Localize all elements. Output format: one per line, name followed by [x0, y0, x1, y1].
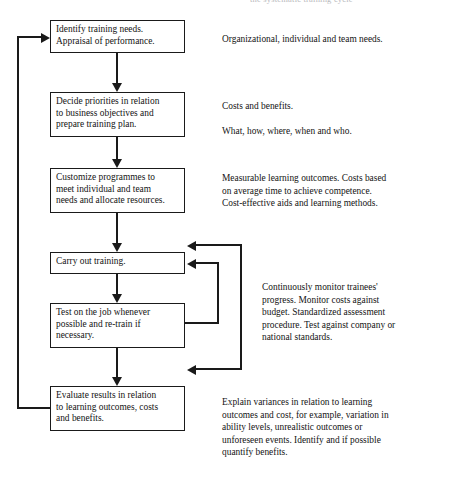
annotation-explain-line-5: quantify benefits. — [222, 446, 389, 459]
node-decide-line-3: prepare training plan. — [56, 119, 180, 131]
annotation-explain-variances: Explain variances in relation to learnin… — [222, 396, 389, 459]
node-carry-line-1: Carry out training. — [56, 256, 180, 268]
annotation-monitor-line-4: procedure. Test against company or — [262, 319, 395, 332]
node-identify-line-2: Appraisal of performance. — [56, 36, 180, 48]
annotation-costs-para-2: What, how, where, when and who. — [222, 125, 352, 138]
annotation-measure-line-3: Cost-effective aids and learning methods… — [222, 197, 386, 210]
annotation-costs-line-1: Costs and benefits. — [222, 100, 352, 113]
annotation-costs-line-2: What, how, where, when and who. — [222, 125, 352, 138]
connector-decide-to-customize-stem — [116, 137, 118, 159]
annotation-costs-benefits: Costs and benefits. What, how, where, wh… — [222, 100, 352, 138]
node-decide-priorities[interactable]: Decide priorities in relation to busines… — [50, 92, 185, 137]
annotation-continuous-monitoring: Continuously monitor trainees' progress.… — [262, 281, 395, 344]
connector-identify-to-decide-stem — [116, 53, 118, 83]
node-customize-programmes[interactable]: Customize programmes to meet individual … — [50, 168, 185, 213]
annotation-monitor-line-2: progress. Monitor costs against — [262, 294, 395, 307]
node-customize-line-1: Customize programmes to — [56, 172, 180, 184]
connector-feedback-outer-vertical-segment — [240, 244, 242, 370]
annotation-costs-para-1: Costs and benefits. — [222, 100, 352, 113]
connector-decide-to-customize-arrowhead — [112, 159, 122, 168]
connector-feedback-outer-bottom-segment — [196, 368, 242, 370]
node-test-line-2: possible and re-train if — [56, 319, 180, 331]
connector-feedback-left-bottom-segment — [17, 407, 51, 409]
annotation-needs-para-1: Organizational, individual and team need… — [222, 33, 383, 46]
connector-feedback-inner-bottom-segment — [185, 322, 219, 324]
node-identify-training-needs[interactable]: Identify training needs. Appraisal of pe… — [50, 20, 185, 53]
connector-test-to-evaluate-stem — [116, 348, 118, 377]
annotation-organizational-needs: Organizational, individual and team need… — [222, 33, 383, 46]
annotation-monitor-para-1: Continuously monitor trainees' progress.… — [262, 281, 395, 344]
annotation-measure-line-1: Measurable learning outcomes. Costs base… — [222, 172, 386, 185]
node-customize-line-2: meet individual and team — [56, 184, 180, 196]
connector-feedback-outer-bottom-arrowhead — [187, 365, 196, 375]
connector-feedback-inner-arrowhead — [187, 259, 196, 269]
annotation-monitor-line-5: national standards. — [262, 331, 395, 344]
node-evaluate-line-3: and benefits. — [56, 413, 180, 425]
node-decide-line-1: Decide priorities in relation — [56, 96, 180, 108]
node-identify-line-1: Identify training needs. — [56, 24, 180, 36]
connector-feedback-outer-top-segment — [196, 244, 242, 246]
node-evaluate-results[interactable]: Evaluate results in relation to learning… — [50, 386, 185, 431]
connector-identify-to-decide-arrowhead — [112, 83, 122, 92]
connector-customize-to-carry-arrowhead — [112, 243, 122, 252]
connector-feedback-left-vertical-segment — [17, 36, 19, 409]
annotation-monitor-line-1: Continuously monitor trainees' — [262, 281, 395, 294]
page-header-remnant: the systematic training cycle — [250, 0, 440, 6]
annotation-explain-para-1: Explain variances in relation to learnin… — [222, 396, 389, 459]
node-customize-line-3: needs and allocate resources. — [56, 195, 180, 207]
connector-test-to-evaluate-arrowhead — [112, 377, 122, 386]
flowchart-diagram: the systematic training cycle Identify t… — [0, 0, 450, 484]
connector-customize-to-carry-stem — [116, 213, 118, 243]
connector-feedback-left-top-segment — [17, 36, 41, 38]
annotation-needs-line-1: Organizational, individual and team need… — [222, 33, 383, 46]
connector-feedback-outer-top-arrowhead — [187, 241, 196, 251]
connector-carry-to-test-stem — [116, 274, 118, 294]
node-test-line-1: Test on the job whenever — [56, 307, 180, 319]
annotation-monitor-line-3: budget. Standardized assessment — [262, 306, 395, 319]
annotation-explain-line-4: unforeseen events. Identify and if possi… — [222, 434, 389, 447]
annotation-measure-line-2: on average time to achieve competence. — [222, 185, 386, 198]
annotation-explain-line-3: ability levels, unrealistic outcomes or — [222, 421, 389, 434]
annotation-measurable-outcomes: Measurable learning outcomes. Costs base… — [222, 172, 386, 210]
annotation-explain-line-2: outcomes and cost, for example, variatio… — [222, 409, 389, 422]
annotation-explain-line-1: Explain variances in relation to learnin… — [222, 396, 389, 409]
connector-carry-to-test-arrowhead — [112, 294, 122, 303]
node-test-line-3: necessary. — [56, 330, 180, 342]
node-carry-out-training[interactable]: Carry out training. — [50, 252, 185, 274]
connector-feedback-left-arrowhead — [41, 33, 50, 43]
node-test-on-the-job[interactable]: Test on the job whenever possible and re… — [50, 303, 185, 348]
annotation-measure-para-1: Measurable learning outcomes. Costs base… — [222, 172, 386, 210]
connector-feedback-inner-vertical-segment — [217, 262, 219, 324]
node-evaluate-line-1: Evaluate results in relation — [56, 390, 180, 402]
connector-feedback-inner-top-segment — [196, 262, 219, 264]
node-decide-line-2: to business objectives and — [56, 108, 180, 120]
node-evaluate-line-2: to learning outcomes, costs — [56, 402, 180, 414]
